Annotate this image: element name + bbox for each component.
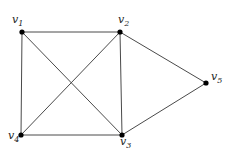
vertex-label-v5: v5 xyxy=(211,71,222,82)
graph-canvas xyxy=(0,0,230,152)
graph-edge-v2-v4 xyxy=(21,32,120,135)
graph-vertex-v5 xyxy=(203,80,208,85)
vertex-layer xyxy=(18,29,208,137)
vertex-label-subscript-v3: 3 xyxy=(126,141,131,150)
vertex-label-v4: v4 xyxy=(8,130,19,141)
vertex-label-subscript-v4: 4 xyxy=(14,135,19,144)
graph-edge-v1-v4 xyxy=(21,32,22,135)
edge-layer xyxy=(21,32,206,135)
graph-vertex-v1 xyxy=(19,29,24,34)
graph-edge-v1-v3 xyxy=(22,32,122,135)
vertex-label-v2: v2 xyxy=(118,14,129,25)
graph-edge-v2-v3 xyxy=(120,32,122,135)
vertex-label-subscript-v2: 2 xyxy=(124,19,129,28)
graph-edge-v2-v5 xyxy=(120,32,206,83)
vertex-label-subscript-v1: 1 xyxy=(18,19,23,28)
vertex-label-subscript-v5: 5 xyxy=(217,76,222,85)
graph-edge-v3-v5 xyxy=(122,83,206,135)
vertex-label-v3: v3 xyxy=(120,136,131,147)
graph-figure: v1v2v3v4v5 xyxy=(0,0,230,152)
vertex-label-v1: v1 xyxy=(12,14,23,25)
graph-vertex-v2 xyxy=(117,29,122,34)
